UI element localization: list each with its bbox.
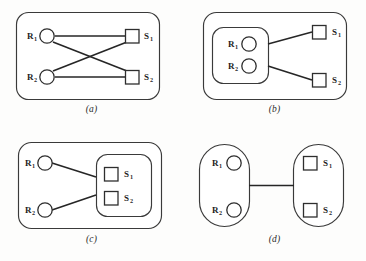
label-s1-a: S (144, 31, 149, 41)
label-s2-sub-b: 2 (338, 79, 341, 86)
panel-b: R 1 R 2 S 1 S 2 (b) (183, 0, 366, 130)
label-s2-sub-d: 2 (329, 209, 332, 216)
label-r1-b: R (228, 39, 235, 49)
label-r1-sub-a: 1 (34, 35, 37, 42)
sender-group-d (294, 145, 344, 227)
caption-c: (c) (0, 234, 183, 244)
panel-d: R 1 R 2 S 1 S 2 (d) (183, 131, 366, 261)
label-s2-sub-c: 2 (130, 197, 133, 204)
label-r2-sub-d: 2 (219, 209, 222, 216)
node-r1-b (242, 37, 256, 51)
label-r2-sub-b: 2 (235, 65, 238, 72)
figure-panel-grid: R 1 R 2 S 1 S 2 (a) R 1 R 2 S (0, 0, 366, 261)
node-s1-d (304, 157, 318, 171)
receiver-group-b (213, 28, 269, 84)
sender-group-c (97, 155, 152, 217)
receiver-group-d (200, 145, 250, 227)
panel-a-diagram: R 1 R 2 S 1 S 2 (0, 0, 183, 104)
label-r1-c: R (25, 158, 32, 168)
caption-d: (d) (183, 234, 366, 244)
label-r1-sub-c: 1 (32, 162, 35, 169)
caption-b: (b) (183, 104, 366, 114)
label-r1-a: R (27, 31, 34, 41)
node-r2-a (40, 70, 54, 84)
label-s1-c: S (124, 169, 129, 179)
panel-c-diagram: R 1 R 2 S 1 S 2 (0, 131, 183, 234)
label-r2-a: R (27, 72, 34, 82)
caption-a: (a) (0, 104, 183, 114)
label-s1-sub-c: 1 (130, 173, 133, 180)
label-s2-b: S (332, 75, 337, 85)
label-s1-b: S (332, 27, 337, 37)
label-s2-a: S (144, 72, 149, 82)
label-r1-d: R (212, 158, 219, 168)
node-r2-c (38, 203, 52, 217)
node-r2-b (242, 59, 256, 73)
panel-c: R 1 R 2 S 1 S 2 (c) (0, 131, 183, 261)
node-s1-c (105, 168, 119, 182)
panel-a: R 1 R 2 S 1 S 2 (a) (0, 0, 183, 130)
node-s1-b (313, 26, 327, 40)
label-s1-sub-b: 1 (338, 31, 341, 38)
panel-b-diagram: R 1 R 2 S 1 S 2 (183, 0, 366, 104)
node-r1-a (40, 29, 54, 43)
label-s2-sub-a: 2 (150, 76, 153, 83)
node-r1-c (38, 156, 52, 170)
node-r1-d (227, 156, 241, 170)
node-s2-d (304, 204, 318, 218)
node-s2-b (313, 74, 327, 88)
node-s1-a (126, 30, 140, 44)
label-r2-c: R (25, 205, 32, 215)
label-s2-c: S (124, 193, 129, 203)
label-s1-sub-a: 1 (150, 35, 153, 42)
node-r2-d (227, 203, 241, 217)
label-s1-d: S (323, 158, 328, 168)
label-r2-sub-a: 2 (34, 76, 37, 83)
label-s2-d: S (323, 205, 328, 215)
label-r2-d: R (212, 205, 219, 215)
label-r1-sub-b: 1 (235, 43, 238, 50)
label-r1-sub-d: 1 (219, 162, 222, 169)
label-r2-b: R (228, 61, 235, 71)
node-s2-a (126, 71, 140, 85)
panel-d-diagram: R 1 R 2 S 1 S 2 (183, 131, 366, 234)
label-r2-sub-c: 2 (32, 209, 35, 216)
label-s1-sub-d: 1 (329, 162, 332, 169)
node-s2-c (105, 192, 119, 206)
